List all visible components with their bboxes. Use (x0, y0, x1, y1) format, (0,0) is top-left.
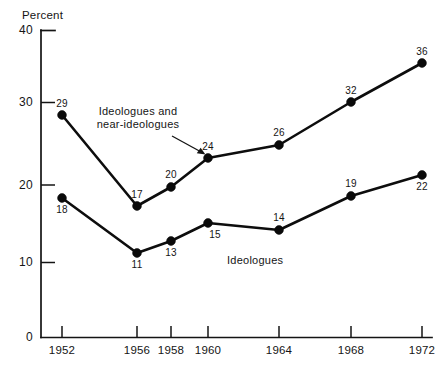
y-tick-label-10: 10 (7, 256, 33, 268)
chart-container: Percent 40 30 20 10 0 1952 1956 1958 196… (0, 0, 442, 371)
point-label-upper-1960: 24 (193, 142, 223, 152)
point-label-upper-1956: 17 (122, 190, 152, 200)
data-point-lower-1952 (58, 194, 67, 203)
x-tick-label-1968: 1968 (321, 345, 381, 357)
data-point-lower-1956 (133, 249, 142, 258)
data-point-lower-1968 (347, 192, 356, 201)
data-point-upper-1958 (167, 183, 176, 192)
point-label-lower-1968: 19 (336, 179, 366, 189)
point-label-upper-1952: 29 (47, 99, 77, 109)
point-label-lower-1952: 18 (47, 205, 77, 215)
data-point-upper-1964 (275, 141, 284, 150)
data-point-upper-1960 (204, 154, 213, 163)
data-point-upper-1972 (418, 59, 427, 68)
point-label-upper-1972: 36 (407, 47, 437, 57)
y-tick-label-40: 40 (7, 24, 33, 36)
axes-group (41, 30, 432, 338)
point-label-lower-1972: 22 (407, 182, 437, 192)
series-label-ideologues: Ideologues (227, 255, 283, 266)
x-tick-label-1952: 1952 (32, 345, 92, 357)
x-tick-label-1960: 1960 (178, 345, 238, 357)
x-tick-label-1972: 1972 (392, 345, 442, 357)
series-label-line-2: near-ideologues (92, 118, 184, 131)
series-label-line-1: Ideologues and (92, 105, 184, 118)
data-point-lower-1972 (418, 171, 427, 180)
point-label-upper-1964: 26 (264, 128, 294, 138)
data-point-upper-1956 (133, 202, 142, 211)
data-point-lower-1960 (204, 219, 213, 228)
data-point-upper-1952 (58, 111, 67, 120)
point-label-upper-1968: 32 (336, 86, 366, 96)
series-line-upper (62, 63, 422, 206)
point-label-lower-1958: 13 (156, 248, 186, 258)
point-label-lower-1960: 15 (200, 230, 230, 240)
series-ideologues-and-near-ideologues (58, 59, 427, 211)
data-point-lower-1964 (275, 226, 284, 235)
series-line-lower (62, 175, 422, 253)
y-axis-title: Percent (22, 10, 63, 22)
y-tick-label-0: 0 (7, 331, 33, 343)
point-label-lower-1964: 14 (264, 213, 294, 223)
point-label-upper-1958: 20 (156, 170, 186, 180)
x-tick-label-1964: 1964 (249, 345, 309, 357)
series-ideologues (58, 171, 427, 258)
y-tick-label-30: 30 (7, 96, 33, 108)
x-ticks-group (62, 326, 422, 338)
chart-canvas (0, 0, 442, 371)
series-label-ideologues-and-near-ideologues: Ideologues and near-ideologues (92, 105, 184, 131)
y-tick-label-20: 20 (7, 179, 33, 191)
y-ticks-group (41, 103, 55, 263)
point-label-lower-1956: 11 (122, 260, 152, 270)
data-point-upper-1968 (347, 98, 356, 107)
data-point-lower-1958 (167, 237, 176, 246)
